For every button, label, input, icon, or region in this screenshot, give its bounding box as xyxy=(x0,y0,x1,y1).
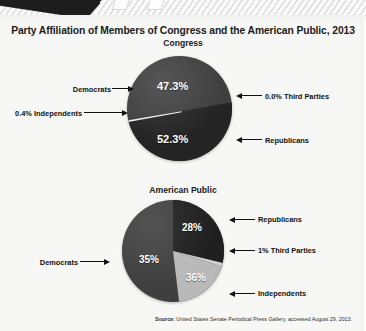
figure-title: Party Affiliation of Members of Congress… xyxy=(0,25,366,36)
congress-arrow-third-parties xyxy=(236,92,262,99)
public-value-independents: 36% xyxy=(186,272,206,283)
public-label-independents: Independents xyxy=(258,289,306,298)
source-label: Source: xyxy=(155,316,175,322)
public-arrow-third-parties xyxy=(229,247,255,254)
congress-third-parties-name: Third Parties xyxy=(282,92,329,101)
public-label-third-parties: 1% Third Parties xyxy=(258,246,316,255)
public-pie-chart xyxy=(122,200,224,302)
congress-arrow-independents xyxy=(84,109,128,116)
source-note: Source: United States Senate Periodical … xyxy=(155,316,352,322)
congress-arrow-republicans xyxy=(236,136,262,143)
public-label-republicans: Republicans xyxy=(258,215,302,224)
public-pie-sheen xyxy=(122,200,224,302)
congress-label-independents: 0.4% Independents xyxy=(2,109,82,118)
public-value-republicans: 28% xyxy=(182,222,202,233)
public-third-parties-value: 1% xyxy=(258,246,269,255)
congress-value-democrats: 47.3% xyxy=(157,80,188,92)
public-chart-heading: American Public xyxy=(0,185,366,195)
source-citation: United States Senate Periodical Press Ga… xyxy=(175,316,352,322)
congress-label-democrats: Democrats xyxy=(66,85,111,94)
congress-third-parties-value: 0.0% xyxy=(265,92,282,101)
public-arrow-independents xyxy=(229,290,255,297)
public-arrow-democrats xyxy=(80,258,110,265)
public-third-parties-name: Third Parties xyxy=(269,246,316,255)
congress-label-republicans: Republicans xyxy=(265,136,309,145)
stripe-notch-right xyxy=(146,0,164,10)
public-value-democrats: 35% xyxy=(139,254,159,265)
congress-pie-chart xyxy=(127,56,232,161)
congress-independents-name: Independents xyxy=(32,109,82,118)
congress-chart-heading: Congress xyxy=(0,38,366,48)
public-arrow-republicans xyxy=(229,216,255,223)
public-label-democrats: Democrats xyxy=(30,258,78,267)
congress-independents-value: 0.4% xyxy=(15,109,32,118)
page-right-edge xyxy=(361,17,366,331)
figure-page: Party Affiliation of Members of Congress… xyxy=(0,0,366,331)
congress-arrow-democrats xyxy=(112,85,134,92)
congress-value-republicans: 52.3% xyxy=(157,133,188,145)
congress-label-third-parties: 0.0% Third Parties xyxy=(265,92,329,101)
band-shadow-fade xyxy=(0,15,366,24)
congress-pie-sheen xyxy=(127,56,232,161)
stripe-notch-left xyxy=(111,0,129,10)
